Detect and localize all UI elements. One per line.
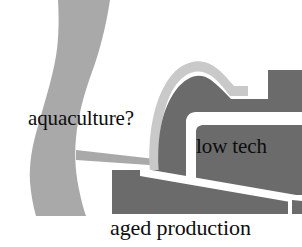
region-label-aged-production: aged production <box>110 217 251 239</box>
region-label-aquaculture: aquaculture? <box>28 108 134 129</box>
region-label-low-tech: low tech <box>196 136 267 157</box>
map-figure: aquaculture? low tech aged production <box>0 0 302 247</box>
right-edge-land-tip <box>292 200 302 214</box>
